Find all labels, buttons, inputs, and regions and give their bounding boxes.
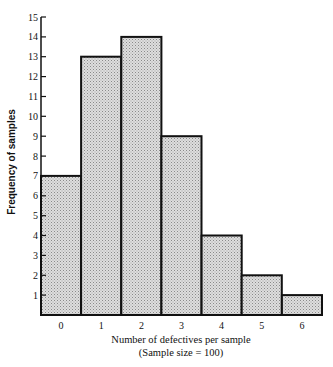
histogram-bar-5 <box>242 275 282 315</box>
x-tick-label: 3 <box>179 320 184 331</box>
y-tick-label: 9 <box>33 131 38 142</box>
histogram-bar-2 <box>121 37 161 315</box>
histogram-bar-4 <box>202 236 242 316</box>
y-tick-label: 12 <box>28 71 38 82</box>
x-axis-subtitle: (Sample size = 100) <box>139 347 224 359</box>
histogram-bar-1 <box>81 57 121 315</box>
y-tick-label: 13 <box>28 51 38 62</box>
x-tick-label: 4 <box>219 320 224 331</box>
y-tick-label: 2 <box>33 270 38 281</box>
y-tick-label: 10 <box>28 111 38 122</box>
y-tick-label: 15 <box>28 12 38 23</box>
histogram-bar-3 <box>161 136 201 315</box>
y-tick-label: 1 <box>33 290 38 301</box>
x-tick-label: 6 <box>299 320 304 331</box>
x-tick-label: 5 <box>259 320 264 331</box>
y-tick-label: 7 <box>33 170 38 181</box>
y-tick-label: 6 <box>33 190 38 201</box>
y-axis-title: Frequency of samples <box>6 109 17 215</box>
histogram-chart: 123456789101112131415 0123456 Frequency … <box>0 0 333 367</box>
x-axis-title: Number of defectives per sample <box>111 334 251 345</box>
y-tick-label: 4 <box>33 230 38 241</box>
bars-group <box>41 37 322 315</box>
x-tick-label: 1 <box>99 320 104 331</box>
histogram-bar-6 <box>282 295 322 315</box>
x-tick-label: 2 <box>139 320 144 331</box>
y-tick-label: 8 <box>33 151 38 162</box>
y-tick-label: 14 <box>28 31 38 42</box>
y-tick-label: 3 <box>33 250 38 261</box>
y-tick-label: 11 <box>28 91 38 102</box>
y-tick-label: 5 <box>33 210 38 221</box>
x-tick-label: 0 <box>59 320 64 331</box>
x-axis: 0123456 <box>41 315 322 331</box>
histogram-bar-0 <box>41 176 81 315</box>
